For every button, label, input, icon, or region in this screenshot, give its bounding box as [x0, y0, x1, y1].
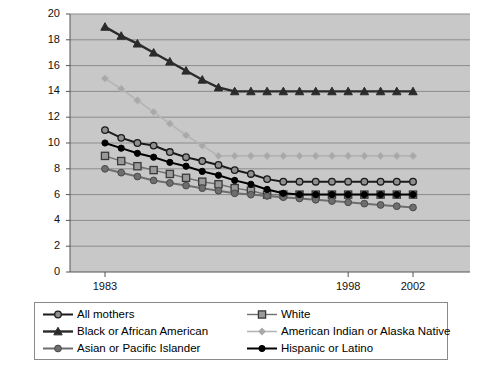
- legend-label-black-or-african-american: Black or African American: [75, 323, 208, 340]
- legend-item-all-mothers[interactable]: All mothers: [41, 306, 241, 323]
- legend-swatch-black-or-african-american: [41, 324, 75, 339]
- legend-label-american-indian-or-alaska-native: American Indian or Alaska Native: [279, 323, 450, 340]
- legend-item-white[interactable]: White: [245, 306, 445, 323]
- y-tick-20: 20: [34, 7, 60, 19]
- legend-item-american-indian-or-alaska-native[interactable]: American Indian or Alaska Native: [245, 323, 445, 340]
- legend-item-asian-or-pacific-islander[interactable]: Asian or Pacific Islander: [41, 340, 241, 357]
- x-tick-1998: 1998: [318, 280, 378, 292]
- y-tick-14: 14: [34, 84, 60, 96]
- y-tick-2: 2: [34, 239, 60, 251]
- y-tick-16: 16: [34, 59, 60, 71]
- chart-legend: All mothers Black or African American As…: [34, 302, 448, 360]
- legend-label-white: White: [279, 306, 310, 323]
- legend-swatch-white: [245, 307, 279, 322]
- legend-item-hispanic-or-latino[interactable]: Hispanic or Latino: [245, 340, 445, 357]
- x-tick-1983: 1983: [75, 280, 135, 292]
- legend-label-hispanic-or-latino: Hispanic or Latino: [279, 340, 373, 357]
- legend-label-asian-or-pacific-islander: Asian or Pacific Islander: [75, 340, 200, 357]
- y-tick-10: 10: [34, 136, 60, 148]
- legend-swatch-american-indian-or-alaska-native: [245, 324, 279, 339]
- y-tick-4: 4: [34, 213, 60, 225]
- y-tick-6: 6: [34, 188, 60, 200]
- y-tick-0: 0: [34, 265, 60, 277]
- y-tick-18: 18: [34, 33, 60, 45]
- legend-column-left: All mothers Black or African American As…: [41, 306, 241, 357]
- legend-column-right: White American Indian or Alaska Native H…: [245, 306, 445, 357]
- legend-label-all-mothers: All mothers: [75, 306, 135, 323]
- legend-item-black-or-african-american[interactable]: Black or African American: [41, 323, 241, 340]
- legend-swatch-asian-or-pacific-islander: [41, 341, 75, 356]
- x-tick-2002: 2002: [383, 280, 443, 292]
- y-tick-8: 8: [34, 162, 60, 174]
- y-tick-12: 12: [34, 110, 60, 122]
- infant-mortality-line-chart: 20181614121086420 198319982002 All mothe…: [0, 0, 485, 370]
- legend-swatch-all-mothers: [41, 307, 75, 322]
- legend-swatch-hispanic-or-latino: [245, 341, 279, 356]
